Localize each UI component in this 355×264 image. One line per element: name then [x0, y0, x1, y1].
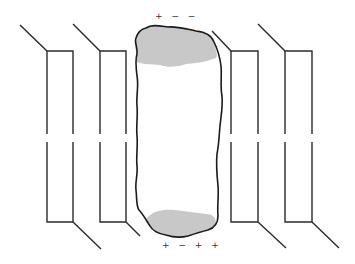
- channel-2-bottom-diagonal: [126, 222, 140, 236]
- channel-4-bottom-diagonal: [312, 222, 339, 248]
- channel-2: [73, 24, 140, 236]
- channel-4: [258, 24, 339, 248]
- channel-3-lower: [231, 142, 258, 222]
- membrane-pore-diagram: + − − + − + +: [0, 0, 355, 264]
- pore-blob: [135, 26, 222, 237]
- channel-3: [212, 31, 286, 248]
- bottom-charge-label: + − + +: [162, 240, 222, 250]
- top-charge-label: + − −: [155, 11, 198, 21]
- channel-3-upper: [212, 31, 258, 134]
- top-cap-fill: [135, 26, 217, 67]
- channel-4-lower: [285, 142, 312, 222]
- channel-1-lower: [47, 142, 73, 222]
- channel-1: [20, 25, 101, 249]
- channel-3-bottom-diagonal: [258, 222, 286, 248]
- channel-1-bottom-diagonal: [73, 222, 101, 249]
- channel-2-lower: [100, 142, 126, 222]
